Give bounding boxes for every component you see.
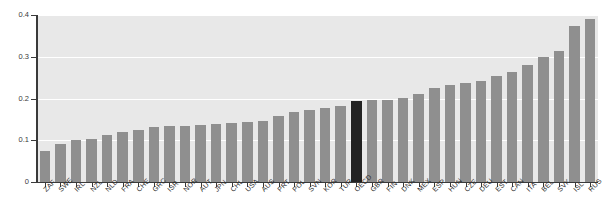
bar-slot (567, 15, 583, 182)
bar-slot (395, 15, 411, 182)
bar-slot (551, 15, 567, 182)
bar-slot (349, 15, 365, 182)
bar-slot (286, 15, 302, 182)
bar[interactable] (429, 88, 440, 182)
bar[interactable] (226, 123, 237, 182)
bar-slot (37, 15, 53, 182)
bar[interactable] (149, 127, 160, 182)
bar[interactable] (289, 112, 300, 182)
bar[interactable] (554, 51, 565, 183)
bar-slot (115, 15, 131, 182)
bar-slot (473, 15, 489, 182)
y-axis-line (36, 15, 38, 183)
bar[interactable] (507, 72, 518, 182)
bar-highlighted[interactable] (351, 101, 362, 182)
bar[interactable] (133, 130, 144, 182)
bar-slot (489, 15, 505, 182)
bar-slot (582, 15, 598, 182)
bar[interactable] (40, 151, 51, 182)
bar[interactable] (211, 124, 222, 182)
bar-slot (520, 15, 536, 182)
bar-slot (146, 15, 162, 182)
bar[interactable] (413, 94, 424, 183)
bar[interactable] (538, 57, 549, 182)
bar[interactable] (569, 26, 580, 182)
bar-slot (53, 15, 69, 182)
bar[interactable] (273, 116, 284, 182)
bar-slot (255, 15, 271, 182)
bar[interactable] (476, 81, 487, 182)
bar-slot (426, 15, 442, 182)
bar[interactable] (55, 144, 66, 182)
bars-layer (37, 15, 598, 182)
bar-slot (380, 15, 396, 182)
bar[interactable] (164, 126, 175, 182)
bar[interactable] (242, 122, 253, 182)
bar-slot (68, 15, 84, 182)
bar[interactable] (180, 126, 191, 182)
bar-slot (208, 15, 224, 182)
y-tick-label: 0.1 (0, 135, 29, 144)
bar-slot (333, 15, 349, 182)
bar[interactable] (86, 139, 97, 182)
bar-slot (130, 15, 146, 182)
bar[interactable] (382, 100, 393, 182)
bar-slot (193, 15, 209, 182)
bar[interactable] (102, 135, 113, 182)
bar[interactable] (491, 76, 502, 182)
bar[interactable] (460, 83, 471, 182)
bar-slot (162, 15, 178, 182)
y-tick-label: 0.3 (0, 52, 29, 61)
y-tick-label: 0 (0, 177, 29, 186)
bar[interactable] (320, 108, 331, 182)
bar-slot (84, 15, 100, 182)
bar[interactable] (522, 65, 533, 182)
bar-slot (271, 15, 287, 182)
bar-chart: 00.10.20.30.4 ZAFSWEIRLNZLNLDFRACHEGRCIS… (0, 0, 605, 221)
bar[interactable] (585, 19, 596, 182)
y-tick-label: 0.4 (0, 10, 29, 19)
bar-slot (240, 15, 256, 182)
bar-slot (317, 15, 333, 182)
bar-slot (177, 15, 193, 182)
bar-slot (411, 15, 427, 182)
bar-slot (536, 15, 552, 182)
plot-area (37, 15, 598, 182)
x-axis-labels: ZAFSWEIRLNZLNLDFRACHEGRCISRNORAUTJPNCHLU… (37, 188, 598, 221)
bar-slot (99, 15, 115, 182)
bar[interactable] (258, 121, 269, 182)
bar-slot (442, 15, 458, 182)
bar[interactable] (71, 140, 82, 182)
y-tick-label: 0.2 (0, 94, 29, 103)
bar[interactable] (367, 100, 378, 182)
bar[interactable] (398, 98, 409, 182)
bar[interactable] (304, 110, 315, 182)
bar-slot (302, 15, 318, 182)
bar-slot (504, 15, 520, 182)
bar[interactable] (117, 132, 128, 182)
bar[interactable] (195, 125, 206, 182)
bar-slot (458, 15, 474, 182)
bar[interactable] (445, 85, 456, 182)
bar-slot (364, 15, 380, 182)
bar-slot (224, 15, 240, 182)
bar[interactable] (335, 106, 346, 182)
